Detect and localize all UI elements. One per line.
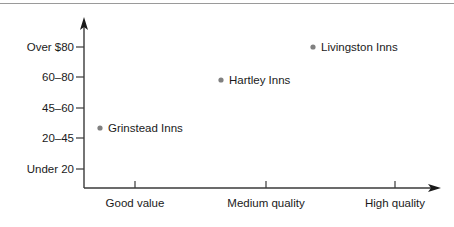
data-point-marker xyxy=(310,44,315,49)
data-point-label: Grinstead Inns xyxy=(108,122,183,134)
scatter-plot-figure: Over $80 60–80 45–60 20–45 Under 20 Good… xyxy=(0,0,454,227)
data-point-label: Livingston Inns xyxy=(321,41,398,53)
x-axis-tick-label: Medium quality xyxy=(206,197,326,209)
y-axis-tick-label: Under 20 xyxy=(8,163,74,175)
y-axis-tick-label: 45–60 xyxy=(8,102,74,114)
data-point-marker xyxy=(218,77,223,82)
data-point-marker xyxy=(97,125,102,130)
y-axis-tick-label: 20–45 xyxy=(8,132,74,144)
x-axis-tick-label: Good value xyxy=(75,197,195,209)
data-point-label: Hartley Inns xyxy=(229,74,290,86)
x-axis-tick-label: High quality xyxy=(335,197,454,209)
y-axis-tick-label: 60–80 xyxy=(8,71,74,83)
y-axis-tick-label: Over $80 xyxy=(8,41,74,53)
